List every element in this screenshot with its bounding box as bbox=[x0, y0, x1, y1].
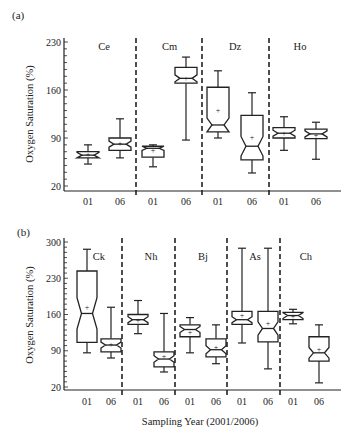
x-tick-label: 06 bbox=[181, 196, 191, 207]
x-tick-label: 01 bbox=[133, 396, 143, 407]
group-label-ck: Ck bbox=[93, 251, 106, 262]
box-ho-01: + bbox=[273, 117, 295, 151]
x-tick-label: 01 bbox=[237, 396, 247, 407]
x-tick-label: 06 bbox=[115, 196, 125, 207]
box-dz-01: + bbox=[207, 71, 229, 138]
svg-text:+: + bbox=[188, 328, 193, 337]
y-tick-label: 230 bbox=[46, 37, 61, 48]
svg-text:+: + bbox=[240, 311, 245, 320]
x-tick-label: 06 bbox=[106, 396, 116, 407]
x-tick-label: 01 bbox=[185, 396, 195, 407]
y-tick-label: 90 bbox=[51, 133, 61, 144]
box-ho-06: + bbox=[305, 122, 327, 159]
x-tick-label: 01 bbox=[82, 396, 92, 407]
group-label-nh: Nh bbox=[145, 251, 159, 262]
box-bj-01: + bbox=[180, 318, 200, 353]
svg-text:+: + bbox=[317, 345, 322, 354]
group-label-ce: Ce bbox=[98, 41, 110, 52]
panel-a-label: (a) bbox=[12, 9, 25, 22]
group-label-ho: Ho bbox=[294, 41, 307, 52]
box-cm-06: + bbox=[175, 57, 197, 140]
panel-a-plot-area: 2090160230CeCmDzHo0106010601060106++++++… bbox=[46, 37, 341, 208]
svg-text:+: + bbox=[214, 343, 219, 352]
group-label-dz: Dz bbox=[229, 41, 242, 52]
x-tick-label: 06 bbox=[263, 396, 273, 407]
y-tick-label: 90 bbox=[51, 345, 61, 356]
figure: (a) Oxygen Saturation (%) 2090160230CeCm… bbox=[0, 0, 362, 443]
box-bj-06: + bbox=[206, 325, 226, 364]
svg-text:+: + bbox=[136, 316, 141, 325]
svg-text:+: + bbox=[184, 74, 189, 83]
box-ch-01: + bbox=[283, 309, 303, 324]
panel-a: (a) Oxygen Saturation (%) 2090160230CeCm… bbox=[12, 9, 341, 207]
panel-b-y-axis-title: Oxygen Saturation (%) bbox=[24, 266, 36, 364]
box-nh-06: + bbox=[154, 313, 174, 372]
svg-text:+: + bbox=[250, 133, 255, 142]
y-tick-label: 230 bbox=[46, 273, 61, 284]
x-tick-label: 06 bbox=[159, 396, 169, 407]
x-tick-label: 06 bbox=[247, 196, 257, 207]
svg-text:+: + bbox=[314, 131, 319, 140]
x-tick-label: 01 bbox=[288, 396, 298, 407]
y-tick-label: 20 bbox=[51, 382, 61, 393]
svg-text:+: + bbox=[118, 139, 123, 148]
x-tick-label: 01 bbox=[83, 196, 93, 207]
box-ce-01: + bbox=[77, 145, 99, 164]
box-ch-06: + bbox=[309, 325, 329, 383]
group-label-bj: Bj bbox=[198, 251, 208, 262]
panel-b-plot-area: 2090160230300CkNhBjAsCh01060106010601060… bbox=[46, 237, 341, 408]
y-tick-label: 20 bbox=[51, 181, 61, 192]
y-tick-label: 160 bbox=[46, 309, 61, 320]
svg-text:+: + bbox=[151, 146, 156, 155]
svg-text:+: + bbox=[85, 303, 90, 312]
svg-text:+: + bbox=[86, 150, 91, 159]
svg-text:+: + bbox=[282, 129, 287, 138]
box-as-06: + bbox=[258, 248, 278, 369]
svg-text:+: + bbox=[216, 106, 221, 115]
box-dz-06: + bbox=[241, 93, 263, 173]
box-cm-01: + bbox=[142, 145, 164, 167]
group-label-cm: Cm bbox=[162, 41, 177, 52]
group-label-as: As bbox=[249, 251, 261, 262]
svg-text:+: + bbox=[266, 319, 271, 328]
x-tick-label: 01 bbox=[279, 196, 289, 207]
panel-a-y-axis-title: Oxygen Saturation (%) bbox=[24, 65, 36, 163]
panel-b: (b) Oxygen Saturation (%) 2090160230300C… bbox=[17, 226, 341, 428]
x-tick-label: 06 bbox=[314, 396, 324, 407]
box-as-01: + bbox=[232, 248, 252, 343]
svg-text:+: + bbox=[291, 312, 296, 321]
group-label-ch: Ch bbox=[300, 251, 313, 262]
x-tick-label: 06 bbox=[211, 396, 221, 407]
box-nh-01: + bbox=[128, 301, 148, 334]
svg-text:+: + bbox=[162, 352, 167, 361]
x-tick-label: 01 bbox=[148, 196, 158, 207]
y-tick-label: 300 bbox=[46, 237, 61, 248]
svg-text:+: + bbox=[109, 340, 114, 349]
x-tick-label: 06 bbox=[311, 196, 321, 207]
box-ck-01: + bbox=[77, 249, 97, 353]
x-axis-title: Sampling Year (2001/2006) bbox=[142, 416, 259, 428]
panel-b-label: (b) bbox=[17, 226, 30, 239]
box-ce-06: + bbox=[109, 119, 131, 158]
y-tick-label: 160 bbox=[46, 85, 61, 96]
x-tick-label: 01 bbox=[213, 196, 223, 207]
box-ck-06: + bbox=[101, 307, 121, 358]
